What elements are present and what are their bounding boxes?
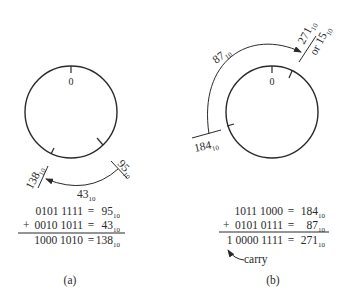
sum-b-plus: + [223,219,230,231]
carry-arrow-icon [228,250,244,260]
marker-184-b [192,130,221,138]
svg-text:13810: 13810 [23,163,48,192]
sum-a-plus: + [23,219,30,231]
panel-b: 0 8710 18410 27110 or 1510 1011 1000 = [192,18,335,287]
zero-label-a: 0 [69,76,74,87]
tick-271-b [289,71,292,78]
binary-sum-a: 0101 1111 = 95 10 + 0010 1011 = 43 10 10… [18,205,125,249]
sum-b-row2-binary: 0101 0111 [235,219,283,231]
svg-text:8710: 8710 [210,45,234,68]
arc-arrow-a [46,169,118,186]
binary-sum-b: 1011 1000 = 184 10 + 0101 0111 = 87 10 1… [219,205,329,249]
sum-a-row3-dec: 138 [96,234,114,246]
sum-b-row2-dec: 87 [307,219,319,231]
panel-a: 0 9510 13810 4310 0101 1111 = 95 10 + 00… [18,66,137,287]
start-label-b: 18410 [193,137,220,157]
sum-a-row1-dec: 95 [102,205,114,217]
sum-b-row3-binary: 1 0000 1111 [227,234,283,246]
zero-label-b: 0 [270,76,275,87]
svg-text:18410: 18410 [193,137,220,157]
sum-a-row1-eq: = [88,205,95,217]
caption-b: (b) [266,274,280,287]
arc-label-a: 4310 [77,188,96,203]
sum-b-row1-base: 10 [318,212,326,220]
sum-a-row2-eq: = [88,219,95,231]
caption-a: (a) [64,274,77,287]
sum-b-row1-binary: 1011 1000 [235,205,284,217]
sum-b-row3-dec: 271 [301,234,319,246]
tick-138-a [51,148,54,154]
end-label-a: 13810 [23,163,48,192]
sum-b-row3-eq: = [288,234,295,246]
tick-95-a [97,138,103,145]
arc-label-b: 8710 [210,45,234,68]
sum-a-row3-binary: 1000 1010 [34,234,83,246]
sum-a-row3-eq: = [88,234,95,246]
sum-a-row1-base: 10 [113,212,121,220]
sum-a-row3-base: 10 [113,241,121,249]
carry-label: carry [244,253,268,266]
sum-a-row1-binary: 0101 1111 [35,205,83,217]
sum-b-row1-eq: = [288,205,295,217]
sum-a-row2-binary: 0010 1011 [35,219,84,231]
sum-b-row2-eq: = [288,219,295,231]
sum-b-row1-dec: 184 [301,205,319,217]
sum-a-row2-dec: 43 [102,219,114,231]
sum-b-row3-base: 10 [318,241,326,249]
modular-addition-figure: 0 9510 13810 4310 0101 1111 = 95 10 + 00… [0,0,360,304]
sum-b-row2-base: 10 [318,226,326,234]
